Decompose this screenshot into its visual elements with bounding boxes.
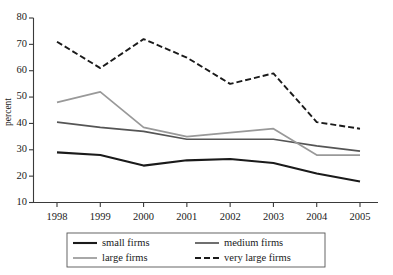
x-tick-label: 2005 bbox=[350, 211, 371, 222]
chart-legend: small firmsmedium firmslarge firmsvery l… bbox=[67, 233, 325, 267]
y-tick-label: 60 bbox=[17, 64, 28, 75]
y-tick-label: 10 bbox=[17, 196, 28, 207]
y-tick-label: 40 bbox=[17, 117, 28, 128]
y-tick-label: 80 bbox=[17, 11, 28, 22]
x-tick-label: 2004 bbox=[306, 211, 328, 222]
y-tick-label: 30 bbox=[17, 143, 28, 154]
y-tick-label: 20 bbox=[17, 170, 28, 181]
legend-label-small-firms: small firms bbox=[102, 237, 150, 248]
x-tick-label: 2000 bbox=[133, 211, 154, 222]
x-tick-label: 1999 bbox=[90, 211, 111, 222]
line-chart: percent 1020304050607080 199819992000200… bbox=[0, 0, 393, 275]
y-axis-title-group: percent bbox=[3, 98, 13, 126]
y-axis: 1020304050607080 bbox=[17, 11, 34, 207]
x-axis: 19981999200020012002200320042005 bbox=[34, 203, 379, 223]
series-line-small-firms bbox=[57, 152, 360, 181]
chart-figure: percent 1020304050607080 199819992000200… bbox=[0, 0, 393, 275]
y-tick-group: 1020304050607080 bbox=[17, 11, 34, 207]
x-tick-label: 1998 bbox=[47, 211, 68, 222]
x-tick-label: 2003 bbox=[263, 211, 284, 222]
legend-label-very-large-firms: very large firms bbox=[224, 252, 291, 263]
y-tick-label: 70 bbox=[17, 38, 28, 49]
legend-label-large-firms: large firms bbox=[102, 252, 148, 263]
y-tick-label: 50 bbox=[17, 90, 28, 101]
legend-label-medium-firms: medium firms bbox=[224, 237, 283, 248]
series-group bbox=[57, 39, 360, 181]
series-line-medium-firms bbox=[57, 122, 360, 151]
series-line-very-large-firms bbox=[57, 39, 360, 129]
y-axis-title: percent bbox=[3, 98, 13, 126]
x-tick-group: 19981999200020012002200320042005 bbox=[47, 203, 371, 223]
x-tick-label: 2001 bbox=[176, 211, 197, 222]
x-tick-label: 2002 bbox=[220, 211, 241, 222]
